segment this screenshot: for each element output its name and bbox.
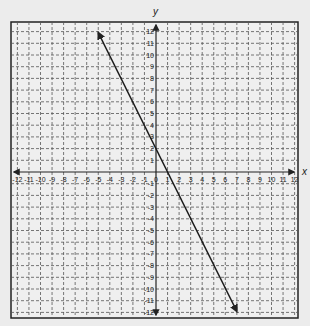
- x-tick-label: 0: [154, 176, 158, 183]
- x-tick-label: 12: [291, 176, 299, 183]
- y-tick-label: 10: [146, 52, 154, 59]
- x-tick-label: -11: [24, 176, 34, 183]
- y-tick-label: -6: [148, 239, 154, 246]
- y-tick-label: -1: [148, 180, 154, 187]
- y-tick-label: 9: [150, 63, 154, 70]
- x-tick-label: -4: [107, 176, 113, 183]
- y-tick-label: 2: [150, 145, 154, 152]
- x-tick-label: 4: [200, 176, 204, 183]
- y-tick-label: -11: [144, 297, 154, 304]
- x-tick-label: -6: [84, 176, 90, 183]
- y-tick-label: -10: [144, 286, 154, 293]
- x-tick-label: -5: [95, 176, 101, 183]
- x-tick-label: 10: [268, 176, 276, 183]
- x-tick-label: 3: [189, 176, 193, 183]
- x-tick-label: 5: [212, 176, 216, 183]
- x-tick-label: -8: [60, 176, 66, 183]
- x-tick-label: 6: [223, 176, 227, 183]
- y-tick-label: 1: [150, 157, 154, 164]
- y-tick-label: 12: [146, 28, 154, 35]
- x-tick-label: 11: [279, 176, 286, 183]
- x-tick-label: 1: [166, 176, 170, 183]
- x-tick-label: -1: [141, 176, 147, 183]
- y-tick-label: 5: [150, 110, 154, 117]
- y-tick-label: -3: [148, 204, 154, 211]
- x-tick-label: -10: [35, 176, 45, 183]
- x-axis-label: x: [301, 166, 308, 177]
- y-tick-label: 11: [147, 40, 154, 47]
- y-tick-label: 4: [150, 122, 154, 129]
- x-tick-label: -9: [49, 176, 55, 183]
- x-tick-label: 7: [235, 176, 239, 183]
- y-tick-label: 7: [150, 87, 154, 94]
- x-tick-label: 8: [246, 176, 250, 183]
- y-tick-label: -12: [144, 309, 154, 316]
- y-tick-label: -7: [148, 250, 154, 257]
- plot-frame: [11, 22, 298, 318]
- coordinate-plane: -12-11-10-9-8-7-6-5-4-3-2-10123456789101…: [0, 0, 310, 326]
- y-tick-label: -5: [148, 227, 154, 234]
- y-tick-label: -2: [148, 192, 154, 199]
- y-axis-label: y: [152, 6, 159, 17]
- x-tick-label: -12: [12, 176, 22, 183]
- y-tick-label: 6: [150, 98, 154, 105]
- x-tick-label: 9: [258, 176, 262, 183]
- y-tick-label: -9: [148, 274, 154, 281]
- x-tick-label: -7: [72, 176, 78, 183]
- y-tick-label: -4: [148, 215, 154, 222]
- x-tick-label: -2: [130, 176, 136, 183]
- y-tick-label: 8: [150, 75, 154, 82]
- x-tick-label: -3: [118, 176, 124, 183]
- y-tick-label: -8: [148, 262, 154, 269]
- x-tick-label: 2: [177, 176, 181, 183]
